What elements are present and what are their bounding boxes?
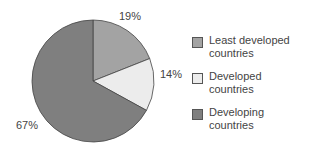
legend-label: Developing [209,106,264,118]
legend-swatch [192,73,203,84]
legend-label: Developed [209,70,262,82]
legend-label-line2: countries [209,119,254,131]
slice-label-developed: 14% [160,68,182,80]
legend-label: Least developed [209,34,290,46]
legend-label-line2: countries [209,83,254,95]
slice-label-developing: 67% [16,119,38,131]
legend-swatch [192,37,203,48]
legend-label-line2: countries [209,47,254,59]
legend-swatch [192,109,203,120]
slice-label-least-developed: 19% [119,10,141,22]
